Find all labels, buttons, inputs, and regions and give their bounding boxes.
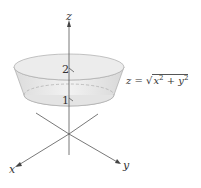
cone-diagram: z x y 2 1 z = √x2 + y2	[0, 0, 201, 188]
eq-y-exp: 2	[184, 74, 188, 82]
x-axis	[17, 134, 69, 166]
tick-label-2: 2	[62, 64, 69, 75]
eq-lhs: z =	[126, 75, 146, 86]
diagram-graphics	[0, 0, 201, 188]
y-axis	[69, 134, 119, 163]
surface-equation: z = √x2 + y2	[126, 75, 188, 86]
x-axis-back	[36, 113, 69, 134]
y-arrow-icon	[115, 159, 121, 164]
tick-label-1: 1	[62, 95, 69, 106]
x-axis-label: x	[9, 164, 15, 175]
y-axis-back	[69, 114, 98, 134]
eq-radicand: x2 + y2	[152, 74, 188, 86]
eq-plus: +	[164, 75, 179, 86]
x-arrow-icon	[15, 162, 22, 167]
z-axis-label: z	[66, 11, 72, 22]
y-axis-label: y	[123, 160, 129, 171]
